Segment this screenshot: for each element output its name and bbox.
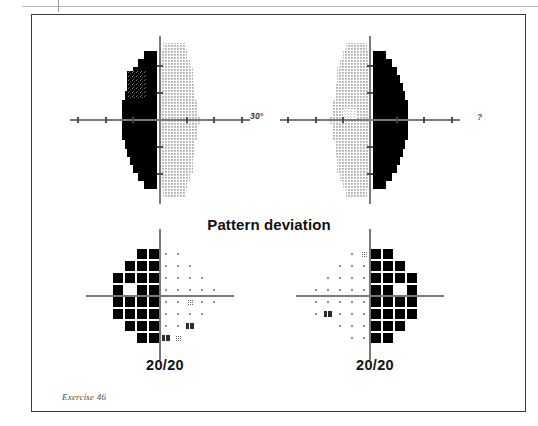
pd-symbol-filled (125, 261, 134, 270)
pd-symbol-filled (149, 321, 158, 330)
grayscale-band (160, 140, 195, 148)
pd-symbol-filled (125, 273, 134, 282)
defect-band (122, 100, 157, 108)
pd-symbol-dot (201, 313, 203, 315)
pd-symbol-filled (149, 261, 158, 270)
grayscale-band (337, 75, 370, 83)
pd-symbol-filled (371, 297, 380, 306)
grayscale-band (335, 149, 370, 157)
pd-symbol-dot (213, 301, 215, 303)
pd-symbol-filled (113, 309, 122, 318)
pd-symbol-filled (137, 309, 146, 318)
pd-symbol-dot (165, 253, 167, 255)
pd-symbol-dot (351, 265, 353, 267)
pd-symbol-filled (395, 321, 404, 330)
defect-band (373, 51, 387, 59)
mottled-patch (127, 71, 146, 98)
defect-band (138, 59, 157, 67)
pd-symbol-filled (407, 309, 416, 318)
defect-band (138, 173, 157, 181)
pd-symbol-dot (339, 265, 341, 267)
pd-symbol-dot (351, 277, 353, 279)
grayscale-band (160, 157, 193, 165)
pd-symbol-dot (351, 253, 353, 255)
pd-symbol-filled (371, 321, 380, 330)
pd-symbol-dot (213, 289, 215, 291)
pd-symbol-dot (165, 277, 167, 279)
grayscale-band (160, 67, 193, 75)
pd-symbol-filled (395, 297, 404, 306)
defect-band (373, 67, 398, 75)
defect-band (373, 100, 408, 108)
defect-band (373, 108, 408, 116)
pd-symbol-filled (137, 285, 146, 294)
pd-symbol-dot (177, 277, 179, 279)
pd-symbol-filled (137, 321, 146, 330)
pd-symbol-dot (315, 289, 317, 291)
pd-symbol-filled (383, 309, 392, 318)
pd-symbol-dot (165, 313, 167, 315)
pd-symbol-dot (363, 325, 365, 327)
pd-symbol-dot (363, 265, 365, 267)
pd-symbol-filled (371, 333, 380, 342)
pd-symbol-dot (339, 325, 341, 327)
pd-symbol-filled (383, 273, 392, 282)
defect-band (144, 51, 158, 59)
pd-symbol-dot (165, 301, 167, 303)
grayscale-band (340, 59, 370, 67)
pd-symbol-dot (177, 301, 179, 303)
pd-symbol-dot (339, 301, 341, 303)
pd-symbol-filled (395, 261, 404, 270)
pd-symbol-halftone (361, 251, 367, 257)
visual-acuity-left: 20/20 (105, 357, 225, 373)
pd-symbol-dot (363, 289, 365, 291)
pd-symbol-filled (149, 309, 158, 318)
pd-symbol-filled (395, 273, 404, 282)
pd-symbol-dot (189, 313, 191, 315)
pd-symbol-halftone (175, 335, 181, 341)
pd-symbol-filled (125, 321, 134, 330)
grayscale-plot-right (280, 36, 460, 205)
grayscale-band (346, 43, 368, 51)
grayscale-band (343, 51, 370, 59)
pd-symbol-filled (125, 309, 134, 318)
pd-symbol-dot (327, 289, 329, 291)
pd-symbol-dot (315, 301, 317, 303)
defect-band (373, 124, 408, 132)
defect-band (373, 59, 392, 67)
pd-symbol-dot (177, 253, 179, 255)
defect-band (125, 140, 158, 148)
pattern-deviation-plot-left (86, 229, 235, 360)
pd-symbol-filled (407, 273, 416, 282)
pd-symbol-filled (149, 297, 158, 306)
pd-symbol-dot (327, 277, 329, 279)
pd-symbol-dot (339, 277, 341, 279)
grayscale-band (337, 157, 370, 165)
pd-symbol-dot (339, 313, 341, 315)
grayscale-plot-left (70, 36, 250, 205)
grayscale-band (332, 132, 370, 140)
grayscale-band (332, 124, 370, 132)
pd-symbol-blindspot-notch (165, 335, 166, 342)
pd-symbol-blindspot-notch (327, 311, 328, 318)
grayscale-band (340, 173, 370, 181)
defect-band (373, 165, 398, 173)
pd-symbol-dot (177, 325, 179, 327)
mottled-patch (343, 109, 357, 120)
pd-symbol-dot (315, 313, 317, 315)
defect-band (373, 149, 403, 157)
visual-acuity-right: 20/20 (315, 357, 435, 373)
defect-band (373, 157, 400, 165)
pd-symbol-filled (383, 321, 392, 330)
pd-symbol-filled (113, 273, 122, 282)
grayscale-band (163, 43, 185, 51)
grayscale-band (335, 140, 370, 148)
defect-band (127, 149, 157, 157)
pd-symbol-dot (351, 325, 353, 327)
pd-symbol-dot (165, 265, 167, 267)
defect-band (373, 181, 387, 189)
pd-symbol-dot (189, 289, 191, 291)
pattern-deviation-title: Pattern deviation (0, 216, 538, 233)
pd-symbol-dot (189, 277, 191, 279)
grayscale-band (160, 165, 193, 173)
